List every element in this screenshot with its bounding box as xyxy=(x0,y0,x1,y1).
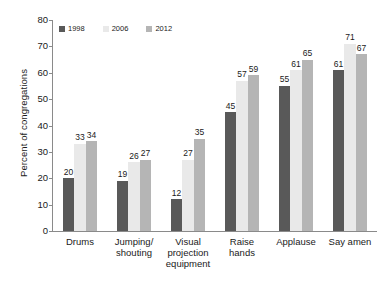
bar-slot: 45 xyxy=(225,20,237,231)
bar-value-label: 67 xyxy=(350,44,374,53)
bar-group-bars: 617167 xyxy=(333,20,368,231)
legend-label: 2012 xyxy=(155,25,172,33)
bar-value-label: 27 xyxy=(134,149,158,158)
x-axis-category-label: Drums xyxy=(53,236,107,247)
y-axis-tick-label: 60 xyxy=(22,68,48,77)
y-axis-tick-label: 40 xyxy=(22,121,48,130)
bar-group: 122735 xyxy=(171,20,206,231)
y-axis-tick-label: 0 xyxy=(22,226,48,235)
bar[interactable] xyxy=(182,160,194,231)
bar[interactable] xyxy=(225,112,237,231)
bar-slot: 12 xyxy=(171,20,183,231)
bar-group-bars: 556165 xyxy=(279,20,314,231)
bar-slot: 55 xyxy=(279,20,291,231)
bar-value-label: 34 xyxy=(80,131,104,140)
bar-slot: 26 xyxy=(128,20,140,231)
bar[interactable] xyxy=(290,70,302,231)
bar[interactable] xyxy=(194,139,206,231)
y-axis-tick-mark xyxy=(49,126,52,127)
bar[interactable] xyxy=(140,160,152,231)
bar-slot: 65 xyxy=(302,20,314,231)
bar[interactable] xyxy=(86,141,98,231)
bar[interactable] xyxy=(344,44,356,231)
x-axis-category-label: Say amen xyxy=(323,236,377,247)
bar-group-bars: 122735 xyxy=(171,20,206,231)
bar[interactable] xyxy=(279,86,291,231)
y-axis-tick-mark xyxy=(49,46,52,47)
x-axis-category-label: Applause xyxy=(269,236,323,247)
bar-group: 192627 xyxy=(117,20,152,231)
bar-slot: 20 xyxy=(63,20,75,231)
y-axis-tick-mark xyxy=(49,99,52,100)
y-axis-tick-label: 30 xyxy=(22,147,48,156)
bar[interactable] xyxy=(248,75,260,231)
bar-value-label: 59 xyxy=(242,65,266,74)
y-axis-tick-mark xyxy=(49,152,52,153)
bar-group: 556165 xyxy=(279,20,314,231)
bar[interactable] xyxy=(302,60,314,231)
bar-slot: 33 xyxy=(74,20,86,231)
y-axis-tick-label: 50 xyxy=(22,94,48,103)
y-axis-tick-label: 80 xyxy=(22,15,48,24)
legend-item[interactable]: 1998 xyxy=(59,25,85,33)
bar-slot: 27 xyxy=(182,20,194,231)
bar[interactable] xyxy=(128,162,140,231)
bar-group: 617167 xyxy=(333,20,368,231)
bar-group-bars: 455759 xyxy=(225,20,260,231)
legend-swatch xyxy=(59,26,65,32)
bar[interactable] xyxy=(236,81,248,231)
y-axis-tick-label: 20 xyxy=(22,173,48,182)
bar-slot: 34 xyxy=(86,20,98,231)
x-axis-line xyxy=(52,231,377,232)
bar-slot: 35 xyxy=(194,20,206,231)
bar-slot: 19 xyxy=(117,20,129,231)
bar[interactable] xyxy=(74,144,86,231)
x-axis-category-label: Raisehands xyxy=(215,236,269,258)
y-axis-tick-mark xyxy=(49,178,52,179)
legend-item[interactable]: 2012 xyxy=(146,25,172,33)
y-axis-tick-mark xyxy=(49,231,52,232)
bar-slot: 61 xyxy=(333,20,345,231)
bar-group: 455759 xyxy=(225,20,260,231)
plot-area: 203334192627122735455759556165617167 xyxy=(53,20,377,231)
legend-item[interactable]: 2006 xyxy=(103,25,129,33)
bar-slot: 67 xyxy=(356,20,368,231)
bar[interactable] xyxy=(356,54,368,231)
bar-slot: 59 xyxy=(248,20,260,231)
x-axis-category-label: Jumping/shouting xyxy=(107,236,161,258)
bar-group: 203334 xyxy=(63,20,98,231)
bar[interactable] xyxy=(117,181,129,231)
y-axis-tick-mark xyxy=(49,20,52,21)
legend-label: 1998 xyxy=(68,25,85,33)
bar-group-bars: 192627 xyxy=(117,20,152,231)
chart-legend: 199820062012 xyxy=(59,25,172,33)
bar-slot: 57 xyxy=(236,20,248,231)
bar[interactable] xyxy=(63,178,75,231)
bar-chart: Percent of congregations 010203040506070… xyxy=(0,0,385,282)
y-axis-tick-label: 70 xyxy=(22,41,48,50)
x-axis-category-label: Visualprojectionequipment xyxy=(161,236,215,269)
bar-slot: 27 xyxy=(140,20,152,231)
bar-group-bars: 203334 xyxy=(63,20,98,231)
y-axis-tick-mark xyxy=(49,73,52,74)
bar[interactable] xyxy=(171,199,183,231)
y-axis-tick-label: 10 xyxy=(22,200,48,209)
bar-value-label: 65 xyxy=(296,49,320,58)
legend-swatch xyxy=(146,26,152,32)
bar[interactable] xyxy=(333,70,345,231)
y-axis-tick-mark xyxy=(49,205,52,206)
legend-swatch xyxy=(103,26,109,32)
bar-value-label: 35 xyxy=(188,128,212,137)
legend-label: 2006 xyxy=(112,25,129,33)
